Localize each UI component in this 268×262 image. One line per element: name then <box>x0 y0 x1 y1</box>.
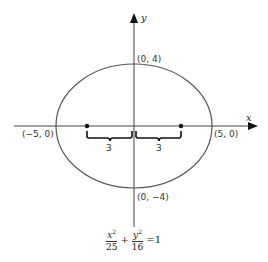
vertex-top-label: (0, 4) <box>137 55 161 64</box>
y-axis-arrow-icon <box>130 13 138 23</box>
fraction-y: y2 16 <box>132 226 143 253</box>
vertex-right-label: (5, 0) <box>214 130 238 139</box>
focus-distance-left: 3 <box>106 144 112 153</box>
vertex-left-label: (−5, 0) <box>22 130 54 139</box>
fraction-x: x2 25 <box>106 226 117 253</box>
vertex-bottom-label: (0, −4) <box>137 193 169 202</box>
x-axis-arrow-icon <box>248 122 258 130</box>
focus-right <box>179 124 183 128</box>
ellipse-equation: x2 25 + y2 16 =1 <box>104 226 162 253</box>
focus-left <box>85 124 89 128</box>
brace-right <box>136 131 181 141</box>
plus-sign: + <box>120 234 128 245</box>
x-axis-label: x <box>246 112 252 123</box>
equals-one: =1 <box>146 234 161 245</box>
y-axis-label: y <box>141 12 147 23</box>
brace-left <box>87 131 132 141</box>
focus-distance-right: 3 <box>156 144 162 153</box>
